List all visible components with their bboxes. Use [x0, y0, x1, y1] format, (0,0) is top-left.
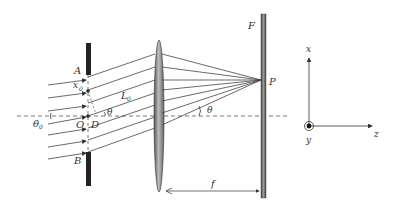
label-theta-screen: θ — [207, 105, 213, 115]
label-f: f — [210, 178, 217, 189]
label-axis-x: x — [306, 44, 311, 54]
slit-screen — [86, 43, 91, 186]
diffracted-rays — [88, 54, 155, 152]
label-F: F — [247, 20, 256, 31]
y-axis-out-of-page-icon — [307, 124, 312, 129]
label-theta-slit: θ — [107, 107, 113, 117]
theta0-angle-arc — [51, 113, 52, 119]
label-A: A — [73, 65, 81, 76]
focal-screen — [261, 14, 266, 198]
diffraction-diagram: A x 0 L 0 θ θ 0 O D B θ F P f x y z — [0, 0, 393, 212]
label-axis-y: y — [305, 135, 312, 145]
coordinate-axes — [305, 58, 373, 131]
label-x0: x — [73, 80, 78, 90]
label-P: P — [268, 76, 276, 87]
converging-lens — [154, 40, 164, 192]
label-L0-sub: 0 — [127, 95, 131, 102]
label-theta0-sub: 0 — [39, 123, 43, 130]
label-D: D — [90, 119, 99, 130]
label-axis-z: z — [373, 129, 379, 139]
label-x0-sub: 0 — [79, 85, 83, 92]
label-O: O — [76, 119, 84, 130]
theta-angle-arc-slit — [104, 112, 105, 116]
label-B: B — [73, 155, 81, 166]
